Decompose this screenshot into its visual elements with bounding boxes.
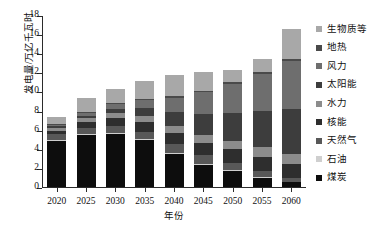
bar-segment-核能[interactable] bbox=[77, 122, 96, 128]
bar-segment-核能[interactable] bbox=[135, 122, 154, 132]
bar-2060[interactable] bbox=[282, 29, 301, 187]
bar-segment-风力[interactable] bbox=[194, 92, 213, 114]
legend-item-太阳能[interactable]: 太阳能 bbox=[316, 76, 376, 95]
bar-segment-煤炭[interactable] bbox=[77, 134, 96, 187]
bar-segment-地热[interactable] bbox=[223, 82, 242, 84]
bar-segment-水力[interactable] bbox=[106, 113, 125, 118]
bar-segment-煤炭[interactable] bbox=[165, 154, 184, 187]
bar-segment-风力[interactable] bbox=[77, 113, 96, 116]
legend-item-风力[interactable]: 风力 bbox=[316, 57, 376, 76]
bar-segment-地热[interactable] bbox=[165, 96, 184, 97]
bar-segment-核能[interactable] bbox=[223, 149, 242, 162]
bar-segment-天然气[interactable] bbox=[194, 155, 213, 164]
bar-segment-水力[interactable] bbox=[47, 128, 66, 131]
bar-segment-地热[interactable] bbox=[253, 72, 272, 74]
y-tick-label: 8 bbox=[34, 105, 39, 115]
bar-segment-煤炭[interactable] bbox=[282, 182, 301, 187]
bar-segment-核能[interactable] bbox=[106, 118, 125, 126]
legend-item-天然气[interactable]: 天然气 bbox=[316, 132, 376, 151]
bar-segment-水力[interactable] bbox=[253, 147, 272, 157]
bar-segment-天然气[interactable] bbox=[47, 134, 66, 140]
legend-item-地热[interactable]: 地热 bbox=[316, 39, 376, 58]
bar-segment-石油[interactable] bbox=[194, 164, 213, 165]
bar-segment-生物质等[interactable] bbox=[282, 29, 301, 59]
bar-segment-地热[interactable] bbox=[194, 91, 213, 92]
bar-segment-石油[interactable] bbox=[165, 153, 184, 154]
bar-segment-煤炭[interactable] bbox=[47, 141, 66, 187]
bar-segment-太阳能[interactable] bbox=[106, 109, 125, 113]
bar-segment-太阳能[interactable] bbox=[253, 111, 272, 147]
bar-segment-核能[interactable] bbox=[253, 157, 272, 171]
bar-segment-石油[interactable] bbox=[106, 133, 125, 134]
legend-item-核能[interactable]: 核能 bbox=[316, 113, 376, 132]
bar-segment-太阳能[interactable] bbox=[282, 109, 301, 154]
bar-segment-地热[interactable] bbox=[282, 59, 301, 61]
bar-2030[interactable] bbox=[106, 89, 125, 187]
bar-segment-石油[interactable] bbox=[135, 139, 154, 140]
bar-segment-水力[interactable] bbox=[77, 118, 96, 122]
x-tick-mark bbox=[262, 188, 263, 192]
legend-item-水力[interactable]: 水力 bbox=[316, 94, 376, 113]
bar-segment-核能[interactable] bbox=[194, 143, 213, 155]
legend-item-石油[interactable]: 石油 bbox=[316, 150, 376, 169]
bar-segment-核能[interactable] bbox=[165, 133, 184, 144]
bar-segment-天然气[interactable] bbox=[106, 126, 125, 133]
bar-2020[interactable] bbox=[47, 117, 66, 187]
bar-segment-煤炭[interactable] bbox=[194, 165, 213, 187]
bar-segment-风力[interactable] bbox=[165, 98, 184, 112]
bar-segment-煤炭[interactable] bbox=[106, 134, 125, 188]
x-tick-mark bbox=[291, 188, 292, 192]
bar-segment-风力[interactable] bbox=[253, 74, 272, 111]
bar-segment-生物质等[interactable] bbox=[223, 70, 242, 82]
legend-swatch-icon bbox=[316, 26, 322, 32]
bar-segment-水力[interactable] bbox=[223, 141, 242, 150]
bar-2055[interactable] bbox=[253, 59, 272, 187]
bar-2050[interactable] bbox=[223, 70, 242, 187]
bar-segment-生物质等[interactable] bbox=[106, 89, 125, 104]
bar-segment-天然气[interactable] bbox=[223, 163, 242, 171]
bar-segment-太阳能[interactable] bbox=[223, 113, 242, 141]
bar-segment-生物质等[interactable] bbox=[135, 81, 154, 99]
bar-segment-太阳能[interactable] bbox=[47, 126, 66, 127]
bar-2040[interactable] bbox=[165, 75, 184, 187]
bar-segment-生物质等[interactable] bbox=[194, 72, 213, 91]
bar-segment-核能[interactable] bbox=[47, 131, 66, 135]
bar-segment-风力[interactable] bbox=[47, 125, 66, 126]
bar-segment-水力[interactable] bbox=[165, 126, 184, 133]
legend-item-生物质等[interactable]: 生物质等 bbox=[316, 20, 376, 39]
bar-segment-地热[interactable] bbox=[135, 99, 154, 100]
bar-segment-生物质等[interactable] bbox=[47, 117, 66, 124]
bar-segment-煤炭[interactable] bbox=[253, 177, 272, 187]
bar-segment-天然气[interactable] bbox=[165, 144, 184, 153]
bar-segment-地热[interactable] bbox=[106, 103, 125, 104]
bar-2045[interactable] bbox=[194, 72, 213, 187]
bar-segment-天然气[interactable] bbox=[135, 132, 154, 140]
y-tick-label: 12 bbox=[30, 66, 40, 76]
bar-segment-太阳能[interactable] bbox=[135, 108, 154, 116]
bar-segment-太阳能[interactable] bbox=[194, 114, 213, 135]
bar-segment-水力[interactable] bbox=[194, 135, 213, 143]
legend-item-煤炭[interactable]: 煤炭 bbox=[316, 169, 376, 188]
bar-2035[interactable] bbox=[135, 81, 154, 187]
bar-segment-天然气[interactable] bbox=[77, 128, 96, 134]
bar-segment-太阳能[interactable] bbox=[77, 116, 96, 118]
bar-segment-石油[interactable] bbox=[77, 134, 96, 135]
bar-segment-风力[interactable] bbox=[282, 61, 301, 109]
bar-segment-水力[interactable] bbox=[282, 154, 301, 165]
bar-segment-风力[interactable] bbox=[135, 100, 154, 109]
bar-segment-生物质等[interactable] bbox=[77, 98, 96, 112]
bar-segment-生物质等[interactable] bbox=[165, 75, 184, 96]
bar-segment-煤炭[interactable] bbox=[223, 171, 242, 187]
bar-segment-核能[interactable] bbox=[282, 164, 301, 178]
bar-segment-太阳能[interactable] bbox=[165, 112, 184, 126]
bar-segment-风力[interactable] bbox=[106, 104, 125, 109]
bar-segment-煤炭[interactable] bbox=[135, 140, 154, 187]
bar-2025[interactable] bbox=[77, 98, 96, 187]
bar-segment-风力[interactable] bbox=[223, 84, 242, 113]
bar-segment-生物质等[interactable] bbox=[253, 59, 272, 72]
bar-segment-天然气[interactable] bbox=[282, 178, 301, 182]
x-tick-mark bbox=[203, 188, 204, 192]
bar-segment-水力[interactable] bbox=[135, 116, 154, 122]
bar-segment-石油[interactable] bbox=[47, 140, 66, 141]
bar-segment-天然气[interactable] bbox=[253, 171, 272, 177]
